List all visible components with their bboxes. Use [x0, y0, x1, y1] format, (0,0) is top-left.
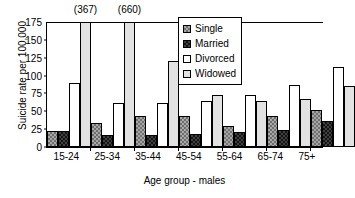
y-axis-tick-mark — [44, 129, 47, 130]
y-axis-tick-mark — [44, 75, 47, 76]
bar-divorced-15-24 — [69, 83, 80, 147]
bar-married-35-44 — [146, 135, 157, 147]
bar-widowed-25-34 — [124, 22, 135, 147]
x-axis-tick-label: 55-64 — [217, 151, 243, 162]
bar-widowed-65-74 — [300, 99, 311, 147]
truncated-bar-annotation: (367) — [74, 4, 97, 15]
bar-married-75+ — [322, 121, 333, 147]
legend: Single Married Divorced Widowed — [178, 17, 242, 85]
bar-group — [91, 22, 135, 147]
legend-item-label: Married — [195, 39, 229, 49]
bar-single-55-64 — [223, 126, 234, 147]
checker-medium-gray-swatch — [183, 25, 191, 33]
bar-divorced-55-64 — [245, 95, 256, 147]
bar-widowed-45-54 — [212, 95, 223, 147]
checker-dark-gray-swatch — [183, 40, 191, 48]
truncated-bar-annotation: (660) — [118, 4, 141, 15]
bar-single-35-44 — [135, 116, 146, 147]
bar-divorced-35-44 — [157, 103, 168, 147]
x-axis-tick-label: 35-44 — [135, 151, 161, 162]
bar-group — [267, 22, 311, 147]
y-axis-tick-mark — [44, 111, 47, 112]
x-axis-tick-label: 45-54 — [176, 151, 202, 162]
legend-item-divorced: Divorced — [183, 51, 236, 66]
bar-single-65-74 — [267, 116, 278, 147]
bar-single-25-34 — [91, 123, 102, 147]
bar-single-45-54 — [179, 116, 190, 147]
bar-widowed-75+ — [344, 86, 355, 147]
bar-divorced-25-34 — [113, 103, 124, 147]
bar-divorced-65-74 — [289, 85, 300, 147]
y-axis-tick-mark — [44, 39, 47, 40]
bar-single-15-24 — [47, 131, 58, 147]
y-axis-tick-mark — [44, 147, 47, 148]
light-gray-swatch — [183, 70, 191, 78]
legend-item-label: Widowed — [195, 69, 236, 79]
bar-married-15-24 — [58, 131, 69, 147]
y-axis-tick-label: 175 — [25, 17, 47, 28]
legend-item-single: Single — [183, 21, 236, 36]
bar-married-25-34 — [102, 135, 113, 147]
legend-item-married: Married — [183, 36, 236, 51]
bar-widowed-55-64 — [256, 101, 267, 147]
bar-widowed-15-24 — [80, 22, 91, 147]
x-axis-tick-label: 15-24 — [54, 151, 80, 162]
legend-item-label: Divorced — [195, 54, 234, 64]
bar-group — [47, 22, 91, 147]
bar-married-45-54 — [190, 134, 201, 147]
legend-item-widowed: Widowed — [183, 66, 236, 81]
bar-single-75+ — [311, 110, 322, 147]
bar-divorced-45-54 — [201, 101, 212, 147]
bar-married-65-74 — [278, 130, 289, 147]
white-swatch — [183, 55, 191, 63]
x-axis-title: Age group - males — [46, 175, 323, 186]
x-axis-tick-label: 25-34 — [94, 151, 120, 162]
legend-item-label: Single — [195, 24, 223, 34]
x-axis-tick-label: 65-74 — [258, 151, 284, 162]
bar-group — [311, 22, 355, 147]
bar-married-55-64 — [234, 132, 245, 147]
y-axis-tick-mark — [44, 57, 47, 58]
x-axis-tick-labels: 15-2425-3435-4445-5455-6465-7475+ — [46, 151, 323, 162]
y-axis-tick-mark — [44, 93, 47, 94]
x-axis-tick-label: 75+ — [298, 151, 315, 162]
bar-group — [135, 22, 179, 147]
bar-divorced-75+ — [333, 67, 344, 147]
